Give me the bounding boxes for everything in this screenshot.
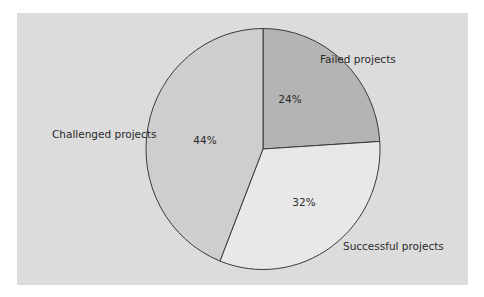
pie-slice-failed-projects	[263, 28, 380, 149]
label-successful-projects: Successful projects	[343, 240, 444, 252]
label-challenged-projects: Challenged projects	[52, 128, 156, 140]
pct-failed-projects: 24%	[278, 93, 301, 105]
label-failed-projects: Failed projects	[320, 53, 396, 65]
pie-chart: Failed projects 24% 32% Successful proje…	[0, 0, 484, 297]
pct-challenged-projects: 44%	[193, 134, 216, 146]
pct-successful-projects: 32%	[292, 196, 315, 208]
